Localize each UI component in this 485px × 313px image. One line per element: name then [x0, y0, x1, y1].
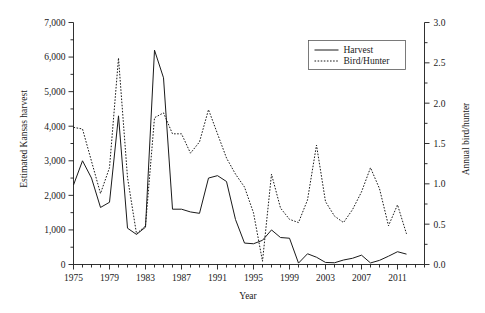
y-axis-left-tick-label: 1,000 [44, 225, 66, 235]
y-axis-right-tick-label: 3.0 [434, 18, 446, 28]
y-axis-left-tick-label: 0 [61, 260, 66, 270]
x-tick-label: 1979 [100, 273, 119, 283]
y-axis-right-tick-label: 0.0 [434, 260, 446, 270]
y-axis-right-tick-label: 2.5 [434, 58, 446, 68]
data-series-layer [74, 50, 407, 263]
x-tick-label: 2007 [352, 273, 371, 283]
x-tick-label: 2011 [388, 273, 407, 283]
x-tick-label: 1983 [136, 273, 155, 283]
legend-label: Bird/Hunter [344, 56, 391, 66]
x-tick-label: 2003 [316, 273, 335, 283]
y-axis-left-tick-label: 2,000 [44, 191, 66, 201]
y-axis-left-tick-label: 3,000 [44, 156, 66, 166]
y-axis-left-ticks: 01,0002,0003,0004,0005,0006,0007,000 [44, 18, 73, 270]
y-axis-left-tick-label: 7,000 [44, 18, 66, 28]
y-axis-right-tick-label: 0.5 [434, 220, 446, 230]
y-axis-left-tick-label: 5,000 [44, 87, 66, 97]
y-axis-right-title: Annual bird/hunter [461, 69, 471, 209]
x-axis-title: Year [183, 291, 313, 301]
y-axis-right-tick-label: 1.0 [434, 179, 446, 189]
y-axis-left-tick-label: 6,000 [44, 52, 66, 62]
chart-figure: 1975197919831987199119951999200320072011… [0, 0, 485, 313]
x-axis-ticks: 1975197919831987199119951999200320072011 [64, 265, 425, 283]
chart-legend: HarvestBird/Hunter [309, 41, 406, 70]
x-tick-label: 1999 [280, 273, 299, 283]
y-axis-right-tick-label: 1.5 [434, 139, 446, 149]
y-axis-right-ticks: 0.00.51.01.52.02.53.0 [425, 18, 446, 270]
x-tick-label: 1995 [244, 273, 263, 283]
x-tick-label: 1991 [208, 273, 227, 283]
y-axis-left-title: Estimated Kansas harvest [19, 69, 29, 209]
x-tick-label: 1975 [64, 273, 83, 283]
legend-label: Harvest [344, 45, 374, 55]
chart-canvas: 1975197919831987199119951999200320072011… [0, 0, 485, 313]
y-axis-left-tick-label: 4,000 [44, 122, 66, 132]
x-tick-label: 1987 [172, 273, 191, 283]
series-line-harvest [74, 50, 407, 263]
y-axis-right-tick-label: 2.0 [434, 99, 446, 109]
